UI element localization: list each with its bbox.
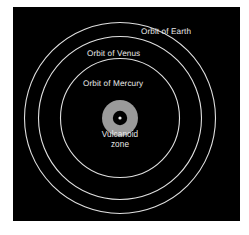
vulcanoid-zone-label: Vulcanoid zone — [90, 130, 150, 149]
vulcanoid-zone-label-line2: zone — [90, 140, 150, 150]
orbit-label-mercury: Orbit of Mercury — [83, 79, 143, 89]
vulcanoid-zone-label-line1: Vulcanoid — [90, 130, 150, 140]
orbit-label-venus: Orbit of Venus — [87, 49, 140, 59]
orbit-diagram-svg — [13, 7, 240, 221]
orbit-label-earth: Orbit of Earth — [141, 27, 191, 37]
sky-panel: Orbit of Earth Orbit of Venus Orbit of M… — [13, 7, 240, 221]
figure-root: Orbit of Earth Orbit of Venus Orbit of M… — [0, 0, 249, 235]
sun-marker — [118, 116, 121, 119]
